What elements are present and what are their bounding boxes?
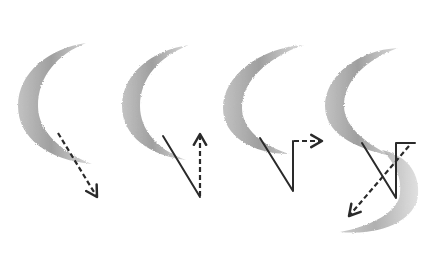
panel-4 [325,48,418,233]
crescent-1-shading [18,43,92,164]
s-curve-upper-shading [325,48,398,156]
panel-3 [223,45,322,191]
s-curve-lower-shading [340,150,418,233]
dashed-arrow-down-right-icon [58,133,97,197]
sketch-canvas [0,0,435,263]
crescent-2-shading [122,45,189,160]
panel-2 [122,45,200,197]
solid-guide-line [260,138,293,191]
crescent-3-shading [223,45,303,154]
solid-guide-line [163,136,200,197]
panel-1 [18,43,97,197]
